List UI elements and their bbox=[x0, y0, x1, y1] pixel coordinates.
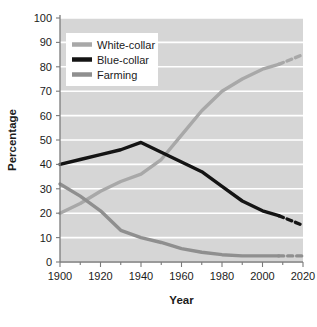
y-tick-label-50: 50 bbox=[40, 134, 52, 146]
x-tick-label-2000: 2000 bbox=[250, 270, 274, 282]
x-tick-label-1980: 1980 bbox=[210, 270, 234, 282]
x-tick-label-1940: 1940 bbox=[129, 270, 153, 282]
y-tick-label-10: 10 bbox=[40, 232, 52, 244]
x-axis-title: Year bbox=[169, 294, 194, 306]
y-tick-label-70: 70 bbox=[40, 85, 52, 97]
y-tick-label-80: 80 bbox=[40, 61, 52, 73]
y-tick-label-20: 20 bbox=[40, 207, 52, 219]
legend-label-farming: Farming bbox=[97, 69, 137, 81]
y-axis-tick-labels: 0102030405060708090100 bbox=[34, 12, 52, 268]
legend-label-white-collar: White-collar bbox=[97, 39, 155, 51]
x-tick-label-1960: 1960 bbox=[169, 270, 193, 282]
legend-label-blue-collar: Blue-collar bbox=[97, 54, 149, 66]
chart-legend: White-collarBlue-collarFarming bbox=[66, 33, 158, 86]
y-tick-label-0: 0 bbox=[46, 256, 52, 268]
x-tick-label-1900: 1900 bbox=[48, 270, 72, 282]
y-tick-label-30: 30 bbox=[40, 183, 52, 195]
y-tick-label-100: 100 bbox=[34, 12, 52, 24]
y-axis-title: Percentage bbox=[6, 109, 18, 171]
y-tick-label-60: 60 bbox=[40, 110, 52, 122]
y-tick-label-90: 90 bbox=[40, 36, 52, 48]
line-chart-figure: 0102030405060708090100 19001920194019601… bbox=[0, 0, 317, 327]
x-tick-label-2020: 2020 bbox=[291, 270, 315, 282]
chart-canvas: 0102030405060708090100 19001920194019601… bbox=[0, 0, 317, 327]
x-axis-tick-labels: 1900192019401960198020002020 bbox=[48, 270, 315, 282]
x-tick-label-1920: 1920 bbox=[88, 270, 112, 282]
y-tick-label-40: 40 bbox=[40, 158, 52, 170]
